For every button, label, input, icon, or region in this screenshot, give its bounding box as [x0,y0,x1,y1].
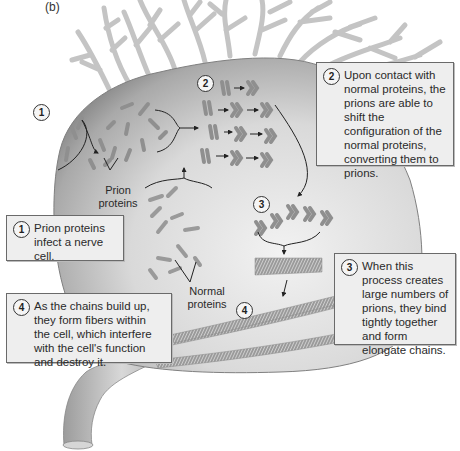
callout-text-1: Prion proteins infect a nerve cell. [34,221,117,263]
prion-label-line2: proteins [94,197,142,210]
step-marker-4: 4 [236,302,253,319]
callout-text-3: When this process creates large numbers … [362,259,449,357]
normal-proteins-label: Normal proteins [182,285,232,311]
callout-step-2: 2 Upon contact with normal proteins, the… [316,62,454,166]
panel-label: (b) [45,0,60,14]
callout-number-1: 1 [13,221,30,238]
step-marker-3: 3 [253,196,270,213]
normal-label-line2: proteins [182,298,232,311]
callout-step-4: 4 As the chains build up, they form fibe… [6,293,172,363]
normal-label-line1: Normal [182,285,232,298]
callout-text-4: As the chains build up, they form fibers… [34,299,165,369]
prion-proteins-label: Prion proteins [94,184,142,210]
callout-number-2: 2 [323,68,340,85]
callout-number-3: 3 [341,259,358,276]
step-marker-1: 1 [33,104,50,121]
step-marker-2: 2 [197,75,214,92]
callout-step-3: 3 When this process creates large number… [334,253,456,345]
callout-number-4: 4 [13,299,30,316]
callout-step-1: 1 Prion proteins infect a nerve cell. [6,215,124,261]
prion-label-line1: Prion [94,184,142,197]
callout-text-2: Upon contact with normal proteins, the p… [344,68,447,180]
prion-chain [255,258,322,275]
